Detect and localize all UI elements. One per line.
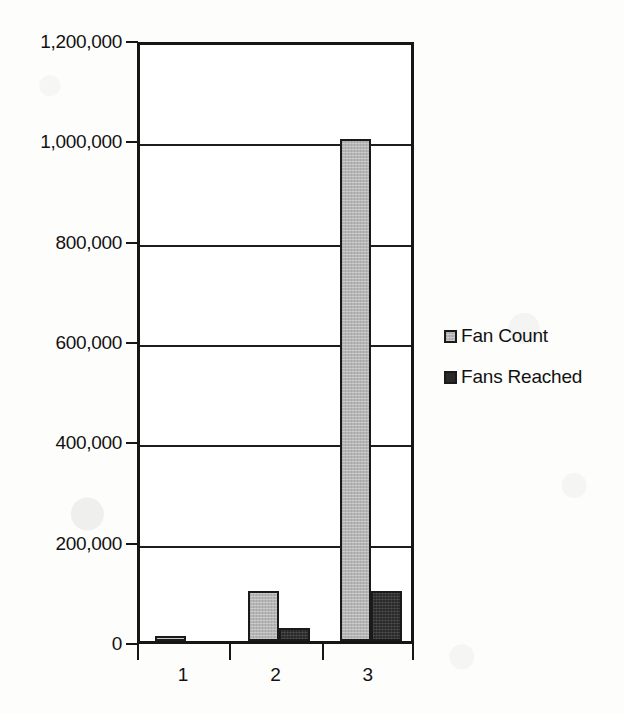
y-axis-tick-label: 400,000 bbox=[55, 432, 122, 454]
chart-legend: Fan CountFans Reached bbox=[444, 325, 614, 407]
x-axis-tick-label: 1 bbox=[178, 664, 189, 686]
bar-3-series-1 bbox=[371, 591, 402, 641]
bar-2-series-1 bbox=[279, 628, 310, 641]
y-axis-tick-label: 1,000,000 bbox=[40, 131, 122, 153]
y-axis-tick-label: 200,000 bbox=[55, 533, 122, 555]
legend-item-1[interactable]: Fans Reached bbox=[444, 366, 614, 388]
chart-page: 0200,000400,000600,000800,0001,000,0001,… bbox=[0, 0, 624, 714]
x-axis-tick-label: 2 bbox=[270, 664, 281, 686]
y-axis-tick-label: 0 bbox=[112, 633, 122, 655]
x-axis: 123 bbox=[137, 644, 414, 704]
y-axis-tick-label: 600,000 bbox=[55, 332, 122, 354]
legend-swatch-icon bbox=[444, 330, 457, 343]
x-axis-tick-mark bbox=[322, 644, 324, 660]
legend-swatch-icon bbox=[444, 371, 457, 384]
x-axis-tick-mark bbox=[412, 644, 414, 660]
y-axis-tick-label: 1,200,000 bbox=[40, 31, 122, 53]
bar-2-series-0 bbox=[248, 591, 279, 641]
x-axis-tick-mark bbox=[137, 644, 139, 660]
legend-item-label: Fan Count bbox=[461, 325, 548, 347]
x-axis-tick-label: 3 bbox=[363, 664, 374, 686]
legend-item-0[interactable]: Fan Count bbox=[444, 325, 614, 347]
bar-1-series-0 bbox=[155, 636, 186, 641]
y-axis: 0200,000400,000600,000800,0001,000,0001,… bbox=[0, 0, 122, 714]
y-axis-tick-label: 800,000 bbox=[55, 232, 122, 254]
x-axis-tick-mark bbox=[229, 644, 231, 660]
bar-3-series-0 bbox=[340, 139, 371, 641]
legend-item-label: Fans Reached bbox=[461, 366, 582, 388]
plot-area bbox=[137, 42, 414, 644]
